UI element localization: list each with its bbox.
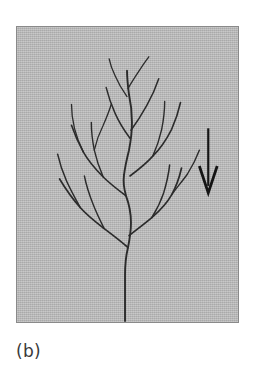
branch-branch-right-mid-tip	[153, 101, 165, 156]
branch-branch-right-mid	[130, 102, 181, 176]
branching-structure-graphic	[17, 27, 238, 322]
branch-branch-left-mid-tip-c	[94, 104, 111, 150]
figure-image-panel	[16, 26, 239, 323]
branch-branch-right-lower-tip-b	[172, 150, 200, 195]
figure-caption: (b)	[16, 341, 41, 362]
branch-branch-top-crown-left	[109, 59, 127, 97]
figure-panel-b: (b)	[0, 0, 255, 378]
branch-branch-right-major-lower	[129, 168, 182, 236]
branch-branch-top-right	[131, 79, 159, 131]
downward-direction-arrow	[199, 128, 217, 193]
branch-branch-top-crown-right	[128, 57, 149, 89]
branch-paths-group	[58, 57, 200, 321]
